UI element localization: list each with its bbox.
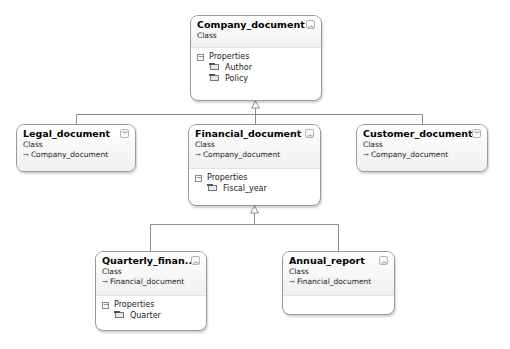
class-header: Company_document Class ︽ bbox=[191, 16, 321, 47]
base-class: ⇾Company_document bbox=[23, 150, 129, 160]
properties-header[interactable]: −Properties bbox=[102, 299, 200, 310]
properties-header[interactable]: −Properties bbox=[197, 51, 315, 62]
properties-header[interactable]: −Properties bbox=[195, 172, 314, 183]
class-box-annual-report[interactable]: Annual_report Class ⇾Financial_document … bbox=[282, 251, 395, 315]
properties-section: −Properties Quarter bbox=[96, 295, 206, 325]
class-kind: Class bbox=[363, 140, 481, 150]
empty-members-section bbox=[283, 295, 394, 315]
class-box-company-document[interactable]: Company_document Class ︽ −Properties Aut… bbox=[190, 15, 322, 101]
class-kind: Class bbox=[197, 31, 315, 41]
class-header: Quarterly_finan... Class ⇾Financial_docu… bbox=[96, 252, 206, 295]
inherits-arrow-icon: ⇾ bbox=[289, 278, 295, 286]
minus-icon[interactable]: − bbox=[195, 175, 202, 182]
property-item[interactable]: Policy bbox=[197, 73, 315, 84]
collapse-icon[interactable]: ︽ bbox=[305, 129, 314, 138]
inherits-arrow-icon: ⇾ bbox=[195, 151, 201, 159]
properties-section: −Properties Fiscal_year bbox=[189, 168, 320, 198]
class-header: Customer_document Class ⇾Company_documen… bbox=[357, 125, 487, 172]
collapse-icon[interactable]: ︽ bbox=[379, 256, 388, 265]
base-class: ⇾Financial_document bbox=[102, 277, 200, 287]
class-box-quarterly-financial[interactable]: Quarterly_finan... Class ⇾Financial_docu… bbox=[95, 251, 207, 331]
inherits-arrow-icon: ⇾ bbox=[23, 151, 29, 159]
class-name: Annual_report bbox=[289, 255, 388, 267]
class-kind: Class bbox=[195, 140, 314, 150]
class-kind: Class bbox=[23, 140, 129, 150]
collapse-icon[interactable]: ︽ bbox=[306, 20, 315, 29]
property-item[interactable]: Fiscal_year bbox=[195, 183, 314, 194]
class-kind: Class bbox=[289, 267, 388, 277]
base-class: ⇾Company_document bbox=[363, 150, 481, 160]
class-name: Customer_document bbox=[363, 128, 481, 140]
inherits-arrow-icon: ⇾ bbox=[102, 278, 108, 286]
class-header: Annual_report Class ⇾Financial_document … bbox=[283, 252, 394, 295]
class-name: Legal_document bbox=[23, 128, 129, 140]
class-name: Quarterly_finan... bbox=[102, 255, 200, 267]
generalization-arrow-company bbox=[252, 101, 260, 108]
class-header: Legal_document Class ⇾Company_document ︾ bbox=[17, 125, 135, 172]
class-name: Financial_document bbox=[195, 128, 314, 140]
property-icon bbox=[209, 63, 220, 71]
class-kind: Class bbox=[102, 267, 200, 277]
collapse-icon[interactable]: ︽ bbox=[191, 256, 200, 265]
property-icon bbox=[207, 184, 218, 192]
class-box-customer-document[interactable]: Customer_document Class ⇾Company_documen… bbox=[356, 124, 488, 172]
property-icon bbox=[209, 74, 220, 82]
properties-section: −Properties Author Policy bbox=[191, 47, 321, 88]
minus-icon[interactable]: − bbox=[197, 54, 204, 61]
class-box-financial-document[interactable]: Financial_document Class ⇾Company_docume… bbox=[188, 124, 321, 206]
minus-icon[interactable]: − bbox=[102, 302, 109, 309]
inherits-arrow-icon: ⇾ bbox=[363, 151, 369, 159]
expand-icon[interactable]: ︾ bbox=[120, 129, 129, 138]
class-header: Financial_document Class ⇾Company_docume… bbox=[189, 125, 320, 168]
class-box-legal-document[interactable]: Legal_document Class ⇾Company_document ︾ bbox=[16, 124, 136, 172]
property-item[interactable]: Author bbox=[197, 62, 315, 73]
base-class: ⇾Company_document bbox=[195, 150, 314, 160]
class-name: Company_document bbox=[197, 19, 315, 31]
expand-icon[interactable]: ︾ bbox=[472, 129, 481, 138]
base-class: ⇾Financial_document bbox=[289, 277, 388, 287]
generalization-arrow-financial bbox=[251, 206, 259, 213]
property-item[interactable]: Quarter bbox=[102, 310, 200, 321]
property-icon bbox=[114, 311, 125, 319]
